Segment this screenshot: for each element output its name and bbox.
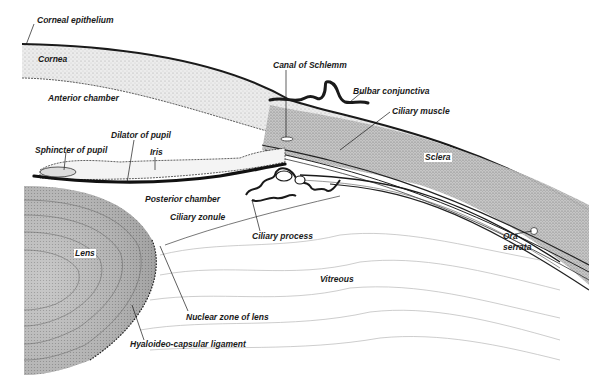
eye-anatomy-diagram: Corneal epithelium Cornea Anterior chamb… [0, 0, 589, 382]
label-posterior-chamber: Posterior chamber [145, 195, 220, 204]
sclera-shape [262, 105, 589, 285]
label-sphincter-of-pupil: Sphincter of pupil [35, 146, 107, 155]
label-serrata: serrata [503, 243, 531, 252]
label-ciliary-zonule: Ciliary zonule [170, 213, 225, 222]
label-bulbar-conjunctiva: Bulbar conjunctiva [353, 87, 430, 96]
label-dilator-of-pupil: Dilator of pupil [111, 131, 171, 140]
label-anterior-chamber: Anterior chamber [48, 94, 119, 103]
label-cornea: Cornea [38, 55, 67, 64]
label-vitreous: Vitreous [320, 275, 354, 284]
canal-of-schlemm-shape [281, 137, 293, 141]
label-canal-of-schlemm: Canal of Schlemm [273, 61, 347, 70]
label-lens: Lens [74, 249, 96, 258]
label-ciliary-process: Ciliary process [252, 232, 313, 241]
eye-section-illustration [0, 0, 589, 382]
label-ora: Ora [503, 232, 518, 241]
label-iris: Iris [150, 148, 163, 157]
label-nuclear-zone-of-lens: Nuclear zone of lens [186, 313, 269, 322]
label-ciliary-muscle: Ciliary muscle [392, 107, 450, 116]
ciliary-process-shape [246, 168, 340, 201]
label-corneal-epithelium: Corneal epithelium [37, 16, 114, 25]
label-hyaloideo-capsular-ligament: Hyaloideo-capsular ligament [130, 340, 246, 349]
label-sclera: Sclera [424, 153, 452, 162]
